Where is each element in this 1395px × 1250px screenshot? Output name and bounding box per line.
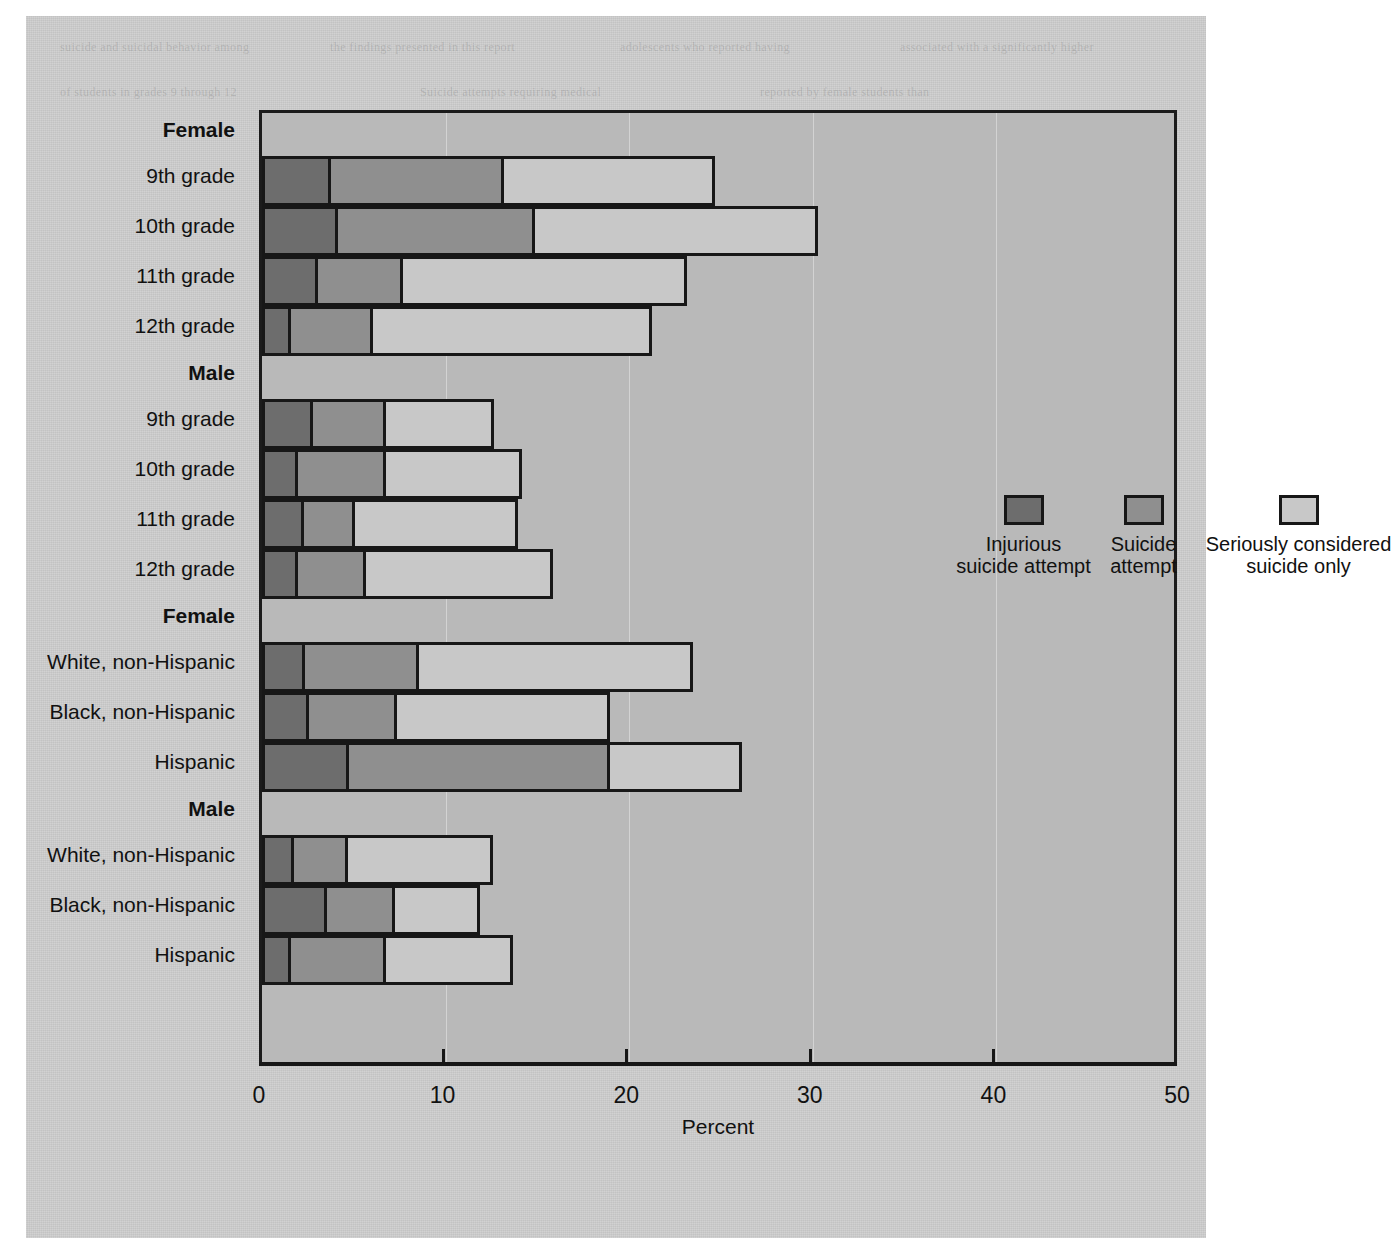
bar-segment-considered — [363, 549, 553, 599]
category-label: 9th grade — [146, 164, 235, 188]
bar-segment-injurious — [262, 306, 291, 356]
bar-segment-attempt — [295, 549, 366, 599]
category-label: 10th grade — [135, 214, 235, 238]
x-tick-label-20: 20 — [613, 1082, 639, 1109]
ghost-text-line: associated with a significantly higher — [900, 40, 1094, 55]
ghost-text-line: adolescents who reported having — [620, 40, 790, 55]
bar-segment-considered — [532, 206, 818, 256]
stacked-bar — [262, 449, 519, 499]
category-label: Hispanic — [154, 750, 235, 774]
bar-segment-injurious — [262, 499, 304, 549]
bar-segment-attempt — [310, 399, 386, 449]
bar-segment-considered — [400, 256, 688, 306]
category-label: 10th grade — [135, 457, 235, 481]
bar-segment-attempt — [324, 885, 395, 935]
legend-label-1: Suicide attempt — [1096, 533, 1191, 578]
x-axis: 01020304050 — [259, 1065, 1177, 1066]
stacked-bar — [262, 935, 510, 985]
x-axis-line — [259, 1062, 1177, 1066]
bar-segment-considered — [383, 935, 513, 985]
bar-segment-injurious — [262, 206, 338, 256]
bar-segment-injurious — [262, 449, 298, 499]
ghost-text-line: reported by female students than — [760, 85, 929, 100]
stacked-bar — [262, 642, 690, 692]
stacked-bar — [262, 256, 684, 306]
category-label: Hispanic — [154, 943, 235, 967]
x-tick-10 — [442, 1049, 445, 1062]
x-tick-label-50: 50 — [1164, 1082, 1190, 1109]
bar-segment-attempt — [288, 935, 386, 985]
stacked-bar — [262, 885, 477, 935]
legend-swatch-2 — [1279, 495, 1319, 525]
stacked-bar — [262, 549, 550, 599]
stacked-bar — [262, 399, 491, 449]
category-label: 11th grade — [136, 507, 235, 531]
x-tick-label-30: 30 — [797, 1082, 823, 1109]
bar-segment-injurious — [262, 399, 313, 449]
bar-segment-attempt — [291, 835, 347, 885]
bar-segment-injurious — [262, 156, 331, 206]
category-label: 11th grade — [136, 264, 235, 288]
bar-segment-considered — [352, 499, 518, 549]
bar-segment-considered — [370, 306, 652, 356]
group-heading-2: Female — [163, 604, 235, 628]
x-tick-30 — [809, 1049, 812, 1062]
category-label: Black, non-Hispanic — [49, 893, 235, 917]
x-tick-40 — [992, 1049, 995, 1062]
chart-legend: Injurious suicide attemptSuicide attempt… — [936, 495, 1395, 605]
legend-item-1: Suicide attempt — [1096, 495, 1191, 578]
plot-area: Injurious suicide attemptSuicide attempt… — [259, 110, 1177, 1065]
legend-item-0: Injurious suicide attempt — [936, 495, 1111, 578]
category-label: 12th grade — [135, 557, 235, 581]
bar-segment-injurious — [262, 885, 327, 935]
stacked-bar — [262, 499, 515, 549]
bar-segment-considered — [345, 835, 493, 885]
bar-segment-injurious — [262, 935, 291, 985]
bar-segment-attempt — [346, 742, 610, 792]
ghost-text-line: of students in grades 9 through 12 — [60, 85, 237, 100]
ghost-text-line: suicide and suicidal behavior among — [60, 40, 249, 55]
bar-segment-considered — [383, 449, 522, 499]
bar-segment-attempt — [302, 642, 419, 692]
bar-segment-considered — [607, 742, 742, 792]
stacked-bar — [262, 156, 712, 206]
x-tick-label-40: 40 — [981, 1082, 1007, 1109]
legend-label-0: Injurious suicide attempt — [936, 533, 1111, 578]
stacked-bar — [262, 206, 815, 256]
legend-item-2: Seriously considered suicide only — [1186, 495, 1395, 578]
ghost-text-line: the findings presented in this report — [330, 40, 515, 55]
bar-segment-attempt — [288, 306, 374, 356]
category-label: Black, non-Hispanic — [49, 700, 235, 724]
bar-segment-considered — [394, 692, 610, 742]
x-tick-label-10: 10 — [430, 1082, 456, 1109]
bar-segment-injurious — [262, 742, 349, 792]
group-heading-0: Female — [163, 118, 235, 142]
legend-label-2: Seriously considered suicide only — [1186, 533, 1395, 578]
category-label: 9th grade — [146, 407, 235, 431]
bar-segment-attempt — [335, 206, 534, 256]
bar-segment-injurious — [262, 256, 318, 306]
bar-segment-attempt — [306, 692, 397, 742]
bar-segment-attempt — [295, 449, 386, 499]
x-tick-label-0: 0 — [253, 1082, 266, 1109]
stacked-bar — [262, 692, 607, 742]
bar-segment-injurious — [262, 549, 298, 599]
legend-swatch-1 — [1124, 495, 1164, 525]
bar-segment-considered — [392, 885, 479, 935]
stacked-bar — [262, 835, 490, 885]
bar-segment-considered — [416, 642, 693, 692]
bar-segment-attempt — [315, 256, 402, 306]
y-axis-category-labels: Female9th grade10th grade11th grade12th … — [0, 110, 247, 1065]
stacked-bar — [262, 306, 649, 356]
bar-segment-considered — [383, 399, 494, 449]
category-label: White, non-Hispanic — [47, 843, 235, 867]
category-label: White, non-Hispanic — [47, 650, 235, 674]
bar-segment-attempt — [328, 156, 504, 206]
stacked-bar — [262, 742, 739, 792]
x-tick-20 — [625, 1049, 628, 1062]
legend-swatch-0 — [1004, 495, 1044, 525]
bar-segment-considered — [501, 156, 715, 206]
group-heading-1: Male — [188, 361, 235, 385]
bar-segment-injurious — [262, 835, 294, 885]
x-axis-title: Percent — [259, 1115, 1177, 1139]
